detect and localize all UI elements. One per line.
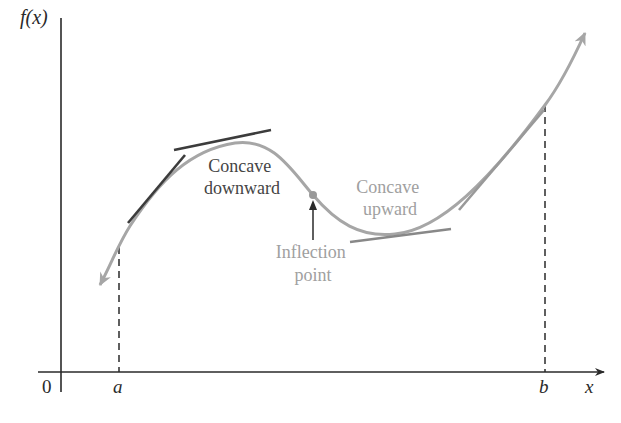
- inflection-point-marker: [309, 191, 317, 199]
- inflection-point-label: Inflection point: [276, 242, 350, 285]
- inflection-arrowhead: [309, 200, 317, 210]
- a-label: a: [113, 376, 123, 397]
- tangent-right-rising: [459, 110, 544, 210]
- concavity-diagram: f(x) 0 a b x Concave downward Concave up…: [0, 0, 621, 423]
- b-label: b: [539, 376, 549, 397]
- tangent-left-rising: [128, 155, 185, 223]
- y-axis-label: f(x): [20, 6, 48, 29]
- concave-upward-label: Concave upward: [356, 177, 423, 219]
- x-axis-label: x: [584, 376, 594, 397]
- concave-downward-label: Concave downward: [204, 156, 280, 198]
- origin-label: 0: [42, 376, 52, 397]
